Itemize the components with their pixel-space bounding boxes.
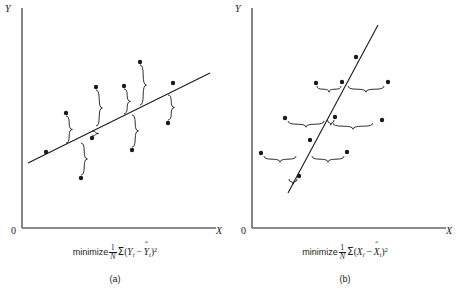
brace-horizontal: [288, 121, 324, 127]
brace-vertical: [92, 131, 99, 136]
formula-denominator: N: [109, 252, 116, 261]
regression-line: [288, 25, 378, 193]
brace-vertical: [66, 116, 72, 143]
brace-vertical: [140, 65, 146, 105]
brace-horizontal: [348, 86, 384, 92]
data-point: [79, 176, 83, 180]
data-point: [90, 136, 94, 140]
data-point: [340, 80, 344, 84]
brace-horizontal: [312, 156, 344, 162]
formula-exponent: 2: [154, 246, 157, 253]
formula-term2: ˆX: [374, 247, 380, 257]
data-point: [380, 118, 384, 122]
data-point: [171, 81, 175, 85]
formula-panel-b: minimize1NΣ(Xi−ˆXi)2: [230, 244, 460, 261]
formula-exponent: 2: [385, 246, 388, 253]
brace-horizontal: [264, 156, 296, 162]
y-axis-label: Y: [235, 4, 241, 14]
formula-sigma: Σ: [347, 245, 354, 257]
data-point: [166, 121, 170, 125]
data-point: [354, 55, 358, 59]
data-point: [94, 85, 98, 89]
data-point: [283, 116, 287, 120]
formula-term2-hat: ˆ: [144, 241, 149, 250]
x-axis-label: X: [216, 226, 222, 236]
brace-vertical: [81, 143, 87, 175]
panel-b-plot: [230, 0, 460, 240]
formula-function-word: minimize: [302, 247, 338, 257]
brace-horizontal: [328, 120, 334, 125]
data-point: [297, 174, 301, 178]
formula-minus: −: [134, 247, 143, 257]
formula-term2-hat: ˆ: [374, 241, 380, 250]
formula-fraction: 1N: [109, 244, 116, 261]
data-point: [64, 111, 68, 115]
data-point: [345, 150, 349, 154]
formula-panel-a: minimize1NΣ(Yi−ˆYi)2: [0, 244, 230, 261]
figure-root: Y X 0 minimize1NΣ(Yi−ˆYi)2 (a): [0, 0, 460, 297]
formula-minus: −: [364, 247, 373, 257]
data-point: [130, 148, 134, 152]
data-point: [138, 60, 142, 64]
panel-a-plot: [0, 0, 230, 240]
brace-vertical: [168, 95, 174, 120]
formula-numerator: 1: [109, 244, 116, 252]
origin-label: 0: [241, 226, 246, 236]
brace-horizontal: [289, 179, 297, 184]
formula-term2: ˆY: [144, 247, 149, 257]
data-point: [308, 138, 312, 142]
formula-denominator: N: [339, 252, 346, 261]
y-axis-label: Y: [5, 4, 11, 14]
formula-function-word: minimize: [73, 247, 109, 257]
data-point: [122, 84, 126, 88]
data-point: [333, 115, 337, 119]
panel-a: Y X 0 minimize1NΣ(Yi−ˆYi)2 (a): [0, 0, 230, 297]
panel-b: Y X 0 minimize1NΣ(Xi−ˆXi)2 (b): [230, 0, 460, 297]
brace-vertical: [132, 115, 138, 147]
brace-horizontal: [333, 123, 373, 129]
residual-braces: [264, 86, 384, 184]
brace-vertical: [96, 90, 102, 126]
data-points: [44, 60, 175, 180]
origin-label: 0: [11, 226, 16, 236]
data-point: [259, 151, 263, 155]
residual-braces: [66, 65, 174, 175]
data-point: [314, 81, 318, 85]
data-point: [386, 80, 390, 84]
formula-numerator: 1: [339, 244, 346, 252]
brace-vertical: [124, 89, 130, 114]
brace-horizontal: [317, 86, 341, 92]
x-axis-label: X: [446, 226, 452, 236]
data-point: [44, 150, 48, 154]
panel-caption-a: (a): [0, 274, 230, 284]
formula-fraction: 1N: [339, 244, 346, 261]
panel-caption-b: (b): [230, 274, 460, 284]
regression-line: [28, 73, 210, 163]
